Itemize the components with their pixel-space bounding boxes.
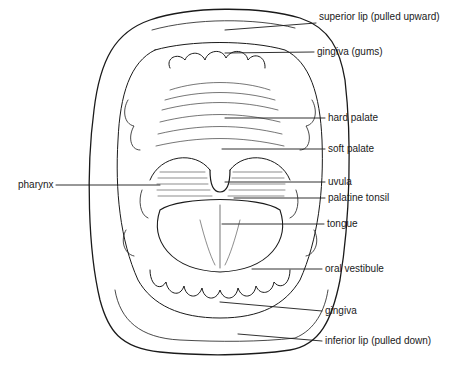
label-oral-vestibule: oral vestibule: [325, 263, 384, 275]
mouth-cavity: [117, 43, 322, 319]
label-tongue: tongue: [327, 218, 358, 230]
label-hard-palate: hard palate: [328, 112, 378, 124]
leader-lines: [56, 23, 325, 341]
label-palatine-tonsil: palatine tonsil: [328, 192, 389, 204]
label-soft-palate: soft palate: [328, 143, 374, 155]
label-pharynx: pharynx: [18, 179, 54, 191]
label-superior-lip: superior lip (pulled upward): [319, 11, 440, 23]
label-gingiva: gingiva: [325, 305, 357, 317]
label-inferior-lip: inferior lip (pulled down): [325, 335, 431, 347]
label-gingiva-gums: gingiva (gums): [317, 46, 383, 58]
mouth-anatomy-illustration: [0, 0, 456, 366]
label-uvula: uvula: [328, 176, 352, 188]
